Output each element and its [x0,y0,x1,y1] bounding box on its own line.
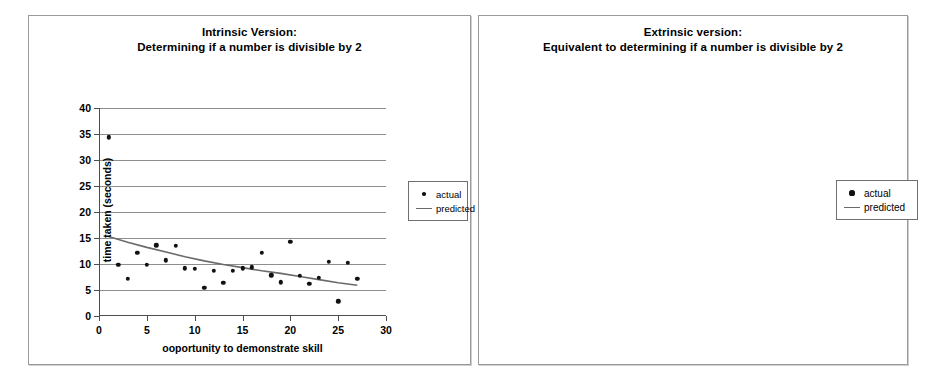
x-tick-label: 20 [284,324,296,336]
figure-two-scatter-charts: Intrinsic Version: Determining if a numb… [0,0,934,385]
legend-intrinsic: actual predicted [408,181,468,221]
y-tick-label: 15 [79,232,91,244]
legend-row-predicted: predicted [415,201,460,215]
x-tick-label: 25 [332,324,344,336]
x-tick-label: 30 [380,324,392,336]
chart-title-intrinsic: Intrinsic Version: Determining if a numb… [29,25,470,55]
x-tick-label: 15 [237,324,249,336]
x-tick [147,316,148,321]
x-tick-label: 5 [144,324,150,336]
y-tick-label: 25 [79,180,91,192]
y-tick-label: 0 [85,310,91,322]
y-tick-label: 20 [79,206,91,218]
x-tick-label: 10 [189,324,201,336]
y-tick-label: 5 [85,284,91,296]
legend-label-actual: actual [864,188,891,199]
legend-marker-dot-icon [843,190,861,195]
x-tick [290,316,291,321]
chart-title-line2: Determining if a number is divisible by … [29,40,470,55]
chart-title-extrinsic: Extrinsic version: Equivalent to determi… [479,25,907,55]
x-tick [243,316,244,321]
y-tick-label: 40 [79,102,91,114]
legend-label-predicted: predicted [864,202,905,213]
legend-extrinsic: actual predicted [836,180,918,220]
legend-row-actual: actual [843,186,910,200]
legend-row-predicted: predicted [843,200,910,214]
legend-marker-line-icon [415,208,433,209]
y-axis-title-intrinsic: time taken (seconds) [101,130,113,290]
x-tick [195,316,196,321]
x-tick [338,316,339,321]
chart-title-line1: Intrinsic Version: [202,26,297,38]
chart-panel-intrinsic: Intrinsic Version: Determining if a numb… [28,15,471,365]
x-tick [386,316,387,321]
y-tick-label: 30 [79,154,91,166]
legend-marker-dot-icon [415,192,433,196]
x-tick [99,316,100,321]
legend-label-predicted: predicted [436,203,475,214]
legend-marker-line-icon [843,207,861,208]
legend-label-actual: actual [436,189,461,200]
chart-title-line2: Equivalent to determining if a number is… [479,40,907,55]
chart-title-line1: Extrinsic version: [644,26,742,38]
plot-area-intrinsic: 0510152025303540 051015202530 ooportunit… [99,108,386,316]
y-tick-label: 35 [79,128,91,140]
y-tick-label: 10 [79,258,91,270]
legend-row-actual: actual [415,187,460,201]
x-axis-title-intrinsic: ooportunity to demonstrate skill [99,342,386,354]
x-tick-label: 0 [96,324,102,336]
trendline-predicted-intrinsic [99,108,386,316]
